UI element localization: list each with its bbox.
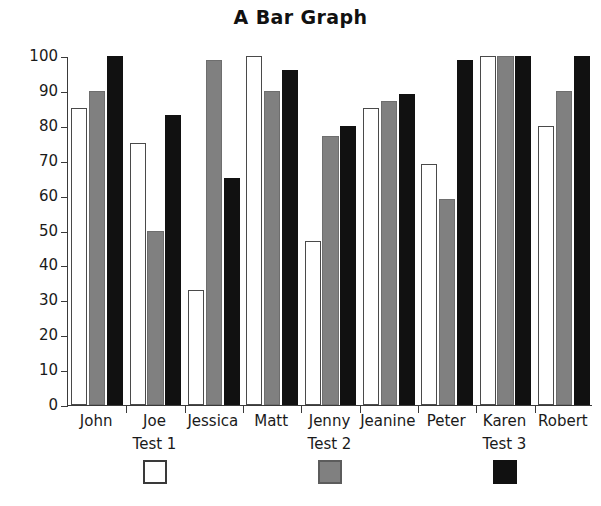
bar-matt-test-3: [282, 70, 298, 405]
bar-karen-test-3: [515, 56, 531, 405]
white-square-swatch: [143, 460, 167, 484]
y-axis-tick-label: 40: [14, 256, 58, 274]
bar-chart: A Bar Graph 0102030405060708090100 JohnJ…: [0, 0, 601, 506]
bar-robert-test-3: [574, 56, 590, 405]
y-axis-tick-label: 20: [14, 326, 58, 344]
bar-jenny-test-2: [322, 136, 338, 405]
bar-peter-test-1: [421, 164, 437, 405]
bar-joe-test-1: [130, 143, 146, 405]
y-axis-tick-label: 70: [14, 152, 58, 170]
legend-entry-test-1[interactable]: Test 1: [95, 434, 215, 484]
y-axis-tick: [61, 57, 68, 58]
y-axis-tick-label: 90: [14, 82, 58, 100]
bar-karen-test-1: [480, 56, 496, 405]
legend-label: Test 1: [95, 434, 215, 454]
y-axis-tick: [61, 162, 68, 163]
y-axis-tick-label: 50: [14, 222, 58, 240]
bar-matt-test-2: [264, 91, 280, 405]
legend-label: Test 3: [445, 434, 565, 454]
bar-peter-test-2: [439, 199, 455, 405]
bar-robert-test-2: [556, 91, 572, 405]
y-axis-tick: [61, 127, 68, 128]
y-axis-tick: [61, 197, 68, 198]
bar-jessica-test-1: [188, 290, 204, 405]
bar-jeanine-test-2: [381, 101, 397, 405]
legend-entry-test-3[interactable]: Test 3: [445, 434, 565, 484]
y-axis-tick: [61, 266, 68, 267]
gray-square-swatch: [318, 460, 342, 484]
y-axis-tick-label: 100: [14, 47, 58, 65]
y-axis-tick-label: 60: [14, 187, 58, 205]
bar-jessica-test-2: [206, 60, 222, 406]
bar-jeanine-test-1: [363, 108, 379, 405]
bar-jenny-test-1: [305, 241, 321, 405]
chart-legend: Test 1Test 2Test 3: [0, 434, 601, 496]
bar-joe-test-3: [165, 115, 181, 405]
bar-john-test-3: [107, 56, 123, 405]
legend-label: Test 2: [270, 434, 390, 454]
bar-jenny-test-3: [340, 126, 356, 405]
y-axis-tick-label: 30: [14, 291, 58, 309]
y-axis-tick: [61, 406, 68, 407]
bar-john-test-1: [71, 108, 87, 405]
bar-matt-test-1: [246, 56, 262, 405]
bars-layer: [68, 57, 592, 405]
y-axis-tick: [61, 371, 68, 372]
y-axis-tick-label: 80: [14, 117, 58, 135]
bar-karen-test-2: [497, 56, 513, 405]
bar-joe-test-2: [147, 231, 163, 406]
y-axis-tick-label: 10: [14, 361, 58, 379]
x-axis-label-robert: Robert: [524, 412, 601, 430]
bar-jeanine-test-3: [399, 94, 415, 405]
bar-robert-test-1: [538, 126, 554, 405]
bar-jessica-test-3: [224, 178, 240, 405]
bar-peter-test-3: [457, 60, 473, 406]
y-axis-tick: [61, 301, 68, 302]
y-axis-tick: [61, 92, 68, 93]
bar-john-test-2: [89, 91, 105, 405]
y-axis-tick: [61, 336, 68, 337]
y-axis-tick: [61, 232, 68, 233]
plot-area: [67, 57, 592, 406]
black-square-swatch: [493, 460, 517, 484]
legend-entry-test-2[interactable]: Test 2: [270, 434, 390, 484]
chart-title: A Bar Graph: [0, 6, 601, 28]
